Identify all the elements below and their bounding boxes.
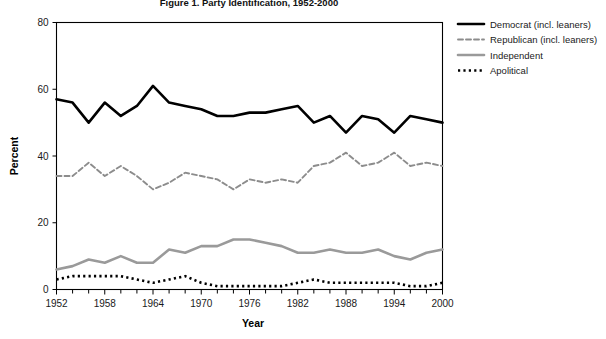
legend-label-0: Democrat (incl. leaners) [490,19,591,30]
y-axis-title: Percent [8,136,20,175]
chart-title: Figure 1. Party Identification, 1952-200… [160,0,338,8]
y-tick-label: 20 [37,217,49,228]
party-identification-chart: Figure 1. Party Identification, 1952-200… [0,0,606,339]
x-axis-title: Year [242,317,264,329]
x-tick-label: 1964 [142,298,165,309]
x-tick-label: 1970 [190,298,213,309]
x-tick-label: 1988 [335,298,358,309]
legend-label-3: Apolitical [490,65,528,76]
x-tick-label: 1958 [94,298,117,309]
y-tick-label: 80 [37,17,49,28]
x-tick-label: 2000 [431,298,454,309]
y-tick-label: 40 [37,151,49,162]
y-tick-label: 0 [43,284,49,295]
x-axis-tick-labels: 195219581964197019761982198819942000 [45,298,454,309]
y-tick-label: 60 [37,84,49,95]
x-tick-label: 1952 [45,298,68,309]
x-tick-label: 1982 [287,298,310,309]
legend-label-1: Republican (incl. leaners) [490,34,597,45]
legend-label-2: Independent [490,50,543,61]
x-tick-label: 1976 [238,298,261,309]
x-tick-label: 1994 [383,298,406,309]
